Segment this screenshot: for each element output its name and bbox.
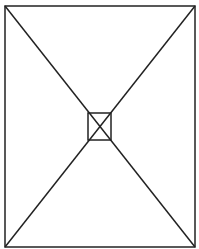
diagram-canvas xyxy=(0,0,199,249)
